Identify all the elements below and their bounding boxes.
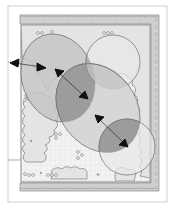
garden-plan-diagram [0,0,175,209]
